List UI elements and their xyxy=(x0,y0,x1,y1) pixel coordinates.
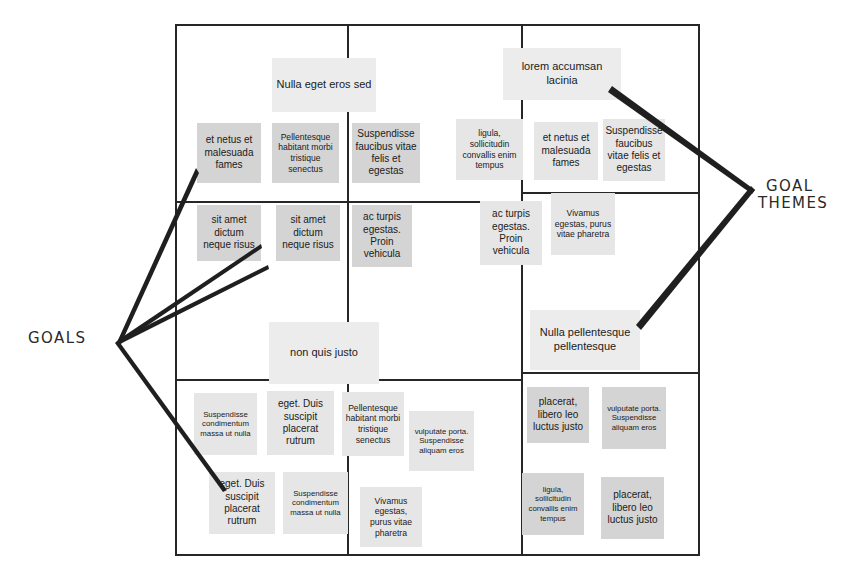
quadrant-header-bottom-right[interactable]: Nulla pellentesque pellentesque xyxy=(530,310,640,370)
quadrant-header-top-right[interactable]: lorem accumsan lacinia xyxy=(503,48,621,100)
sticky-note[interactable]: Pellentesque habitant morbi tristique se… xyxy=(342,392,404,456)
gridline-h-top-left xyxy=(175,201,521,203)
quadrant-header-bottom-left[interactable]: non quis justo xyxy=(269,322,379,384)
sticky-note[interactable]: ac turpis egestas. Proin vehicula xyxy=(352,205,412,267)
quadrant-header-top-left[interactable]: Nulla eget eros sed xyxy=(272,58,376,112)
sticky-note[interactable]: vulputate porta. Suspendisse aliquam ero… xyxy=(602,387,666,449)
sticky-note[interactable]: placerat, libero leo luctus justo xyxy=(527,387,589,443)
sticky-note[interactable]: Suspendisse condimentum massa ut nulla xyxy=(194,393,257,455)
sticky-note[interactable]: ac turpis egestas. Proin vehicula xyxy=(480,201,542,265)
sticky-note[interactable]: Suspendisse faucibus vitae felis et eges… xyxy=(352,123,420,183)
sticky-note[interactable]: Pellentesque habitant morbi tristique se… xyxy=(272,123,339,183)
annotation-label-goals: GOALS xyxy=(28,330,86,347)
sticky-note[interactable]: Vivamus egestas, purus vitae pharetra xyxy=(551,193,615,255)
sticky-note[interactable]: sit amet dictum neque risus xyxy=(276,205,340,261)
sticky-note[interactable]: sit amet dictum neque risus xyxy=(197,205,261,261)
annotation-goals-line1: GOALS xyxy=(28,329,86,347)
sticky-note[interactable]: ligula, sollicitudin convallis enim temp… xyxy=(456,119,523,180)
sticky-note[interactable]: Vivamus egestas, purus vitae pharetra xyxy=(360,487,422,547)
sticky-note[interactable]: Suspendisse faucibus vitae felis et eges… xyxy=(603,119,665,181)
sticky-note[interactable]: ligula, sollicitudin convallis enim temp… xyxy=(522,473,584,535)
sticky-note[interactable]: Suspendisse condimentum massa ut nulla xyxy=(283,472,348,534)
annotation-goal-themes-line2: THEMES xyxy=(758,195,828,212)
sticky-note[interactable]: eget. Duis suscipit placerat rutrum xyxy=(267,391,334,455)
annotation-goal-themes-line1: GOAL xyxy=(766,178,828,195)
gridline-h-bottom-right xyxy=(521,372,700,374)
sticky-note[interactable]: vulputate porta. Suspendisse aliquam ero… xyxy=(409,411,474,471)
annotation-label-goal-themes: GOAL THEMES xyxy=(766,178,828,212)
sticky-note[interactable]: et netus et malesuada fames xyxy=(534,122,598,180)
diagram-canvas: Nulla eget eros sedet netus et malesuada… xyxy=(0,0,863,582)
sticky-note[interactable]: et netus et malesuada fames xyxy=(197,123,261,183)
sticky-note[interactable]: eget. Duis suscipit placerat rutrum xyxy=(209,472,275,534)
sticky-note[interactable]: placerat, libero leo luctus justo xyxy=(601,477,664,539)
